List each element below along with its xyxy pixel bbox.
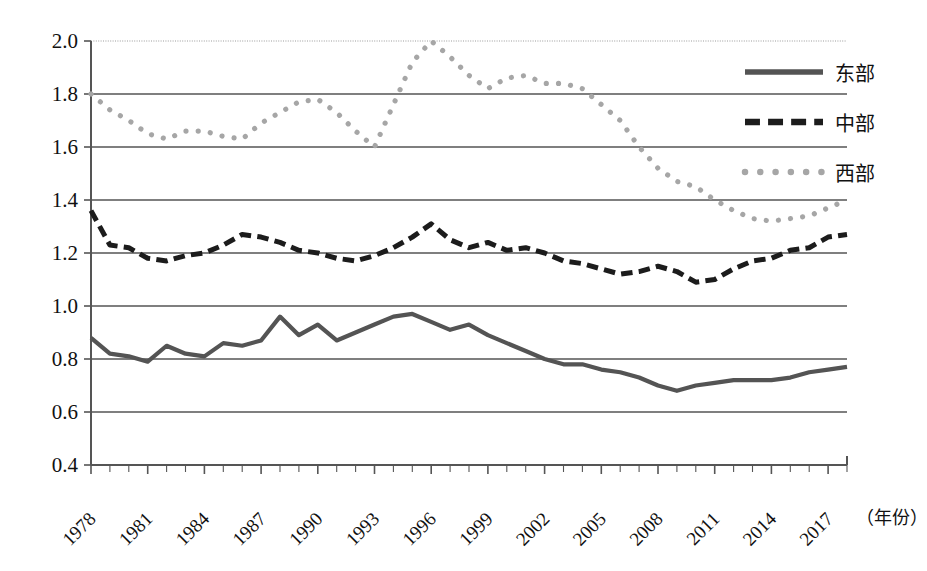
legend-label-中部: 中部 xyxy=(835,112,875,136)
x-axis-tick-label: 1978 xyxy=(58,508,100,550)
x-axis-ticks-group xyxy=(91,465,847,474)
y-axis-tick-label: 1.0 xyxy=(52,294,78,318)
legend-label-西部: 西部 xyxy=(835,162,875,186)
chart-container: 2.01.81.61.41.21.00.80.60.4 197819811984… xyxy=(0,0,927,571)
y-axis-tick-label: 0.6 xyxy=(52,400,78,424)
x-axis-tick-label: 1981 xyxy=(115,508,157,550)
legend: 东部中部西部 xyxy=(745,62,875,186)
y-axis-tick-label: 1.8 xyxy=(52,82,78,106)
y-axis-ticks-group xyxy=(84,41,91,465)
x-axis-tick-label: 1993 xyxy=(342,508,384,550)
x-axis-tick-label: 2002 xyxy=(512,508,554,550)
series-line-中部 xyxy=(91,211,847,283)
x-axis-tick-label: 1990 xyxy=(285,508,327,550)
legend-label-东部: 东部 xyxy=(835,62,875,86)
y-axis-tick-label: 0.4 xyxy=(52,453,79,477)
y-axis-tick-label: 0.8 xyxy=(52,347,78,371)
x-axis-tick-label: 2005 xyxy=(568,508,610,550)
x-axis-tick-label: 2017 xyxy=(795,508,837,550)
line-chart: 2.01.81.61.41.21.00.80.60.4 197819811984… xyxy=(0,0,927,571)
y-axis-tick-label: 1.2 xyxy=(52,241,78,265)
x-axis-tick-label: 1984 xyxy=(172,508,214,550)
x-axis-tick-label: 2014 xyxy=(739,508,781,550)
y-axis-labels-group: 2.01.81.61.41.21.00.80.60.4 xyxy=(52,29,79,477)
y-axis-tick-label: 1.6 xyxy=(52,135,78,159)
x-axis-labels-group: 1978198119841987199019931996199920022005… xyxy=(58,508,837,550)
x-axis-tick-label: 1987 xyxy=(228,508,270,550)
x-axis-tick-label: 2011 xyxy=(682,508,723,549)
x-axis-tick-label: 1996 xyxy=(398,508,440,550)
series-line-西部 xyxy=(91,41,847,221)
x-axis-title: （年份） xyxy=(856,507,927,528)
x-axis-tick-label: 1999 xyxy=(455,508,497,550)
series-line-东部 xyxy=(91,314,847,391)
y-axis-tick-label: 2.0 xyxy=(52,29,78,53)
y-axis-tick-label: 1.4 xyxy=(52,188,79,212)
x-axis-tick-label: 2008 xyxy=(625,508,667,550)
